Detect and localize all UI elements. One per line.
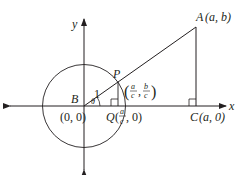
svg-text:b: b: [144, 82, 148, 91]
point-P-label: P: [112, 67, 121, 81]
svg-text:): ): [151, 83, 156, 101]
svg-text:(: (: [124, 83, 129, 101]
x-axis-label: x: [228, 99, 235, 113]
svg-text:c: c: [120, 117, 124, 126]
point-A-coord: A (a, b): [195, 10, 231, 24]
svg-text:(a, b): (a, b): [205, 10, 231, 24]
svg-text:, 0): , 0): [126, 110, 142, 124]
angle-label-theta: θ: [91, 97, 95, 106]
svg-text:(a, 0): (a, 0): [199, 110, 225, 124]
svg-text:c: c: [131, 91, 135, 100]
point-C-label: C: [190, 110, 199, 124]
point-B-label: B: [71, 92, 79, 106]
point-C-coord: C (a, 0): [190, 110, 225, 124]
point-B-coord: (0, 0): [60, 110, 86, 124]
right-angle-mark-C: [189, 99, 196, 106]
point-Q-label: Q: [106, 110, 115, 124]
svg-text:a: a: [131, 82, 135, 91]
svg-text:,: ,: [138, 84, 141, 98]
svg-text:(: (: [115, 110, 119, 124]
y-axis-label: y: [71, 17, 78, 31]
right-angle-mark-Q: [111, 99, 118, 106]
point-P-coord: ( a c , b c ): [124, 82, 156, 101]
point-A-label: A: [195, 10, 204, 24]
svg-text:a: a: [120, 107, 124, 116]
unit-circle-triangle-diagram: y x B (0, 0) P 1 θ ( a c , b c ) Q ( a c…: [0, 0, 240, 175]
svg-text:c: c: [144, 91, 148, 100]
